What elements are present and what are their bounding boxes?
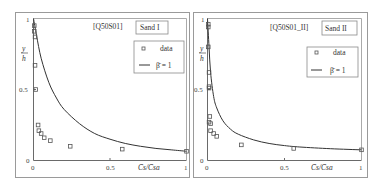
curve-line (208, 19, 362, 150)
y-tick-label-05: 0.5 (194, 86, 203, 94)
panel-frame (194, 13, 368, 178)
curve-line (34, 19, 187, 152)
legend-data-label: data (160, 44, 173, 53)
x-tick-label-05: 0.5 (106, 164, 115, 172)
x-axis-label: C̄s/C̄sa (311, 163, 333, 172)
data-point-square (120, 147, 124, 151)
sand-label: Sand II (325, 24, 347, 33)
legend-curve-label: β̄ = 1 (156, 61, 172, 70)
y-tick-label-0: 0 (200, 157, 204, 165)
y-axis-label-num: y (199, 44, 204, 53)
x-tick-label-1: 1 (184, 164, 188, 172)
data-point-square (36, 123, 40, 127)
data-point-square (208, 115, 212, 119)
data-point-square (49, 139, 53, 143)
y-axis-label-num: y (21, 44, 26, 53)
y-tick-label-1: 1 (201, 16, 205, 24)
x-tick-label-1: 1 (359, 164, 363, 172)
sand-label: Sand I (140, 23, 160, 32)
x-tick-label-0: 0 (205, 164, 209, 172)
panel-frame (16, 13, 190, 178)
panel-sand-1: 1 0.5 0 0 0.5 1 y h C̄s/C̄sa [Q50S01] Sa… (16, 13, 190, 178)
data-point-square (42, 136, 46, 140)
curve-beta-1 (208, 19, 362, 150)
data-point-square (68, 145, 72, 149)
curve-beta-1 (34, 19, 187, 152)
chart-figure: 1 0.5 0 0 0.5 1 y h C̄s/C̄sa [Q50S01] Sa… (0, 0, 382, 185)
x-axis-label: C̄s/C̄sa (138, 163, 160, 172)
panel-sand-2: 1 0.5 0 0 0.5 1 y h C̄s/C̄sa [Q50S01_II]… (194, 13, 368, 178)
legend-curve-label: β̄ = 1 (330, 66, 346, 75)
x-tick-label-0: 0 (31, 164, 35, 172)
y-tick-label-05: 0.5 (19, 86, 28, 94)
y-tick-label-0: 0 (26, 157, 30, 165)
y-tick-label-1: 1 (26, 16, 30, 24)
data-point-square (292, 147, 296, 151)
y-axis-label-den: h (22, 54, 26, 63)
x-tick-label-05: 0.5 (280, 164, 289, 172)
run-id-label: [Q50S01] (93, 22, 123, 31)
data-point-square (240, 143, 244, 147)
legend-data-label: data (333, 48, 346, 57)
y-axis-label-den: h (200, 54, 204, 63)
data-points (206, 22, 363, 151)
run-id-label: [Q50S01_II] (270, 23, 308, 32)
